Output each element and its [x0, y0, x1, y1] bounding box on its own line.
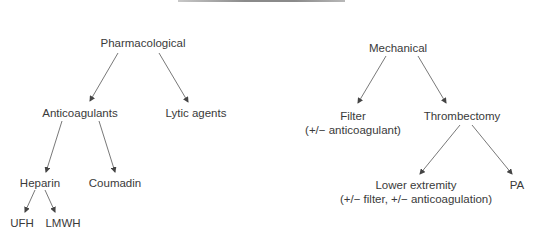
node-thrombectomy: Thrombectomy — [424, 109, 501, 123]
edge-pharm-lytic — [159, 53, 188, 102]
edge-thromb-pa — [472, 125, 512, 174]
edge-thromb-lower — [420, 125, 460, 174]
edge-mech-filter — [358, 56, 386, 103]
node-anticoagulants: Anticoagulants — [42, 106, 117, 120]
node-label: Lytic agents — [166, 106, 227, 120]
node-note: (+/− anticoagulant) — [305, 123, 401, 137]
node-mechanical: Mechanical — [369, 41, 427, 55]
node-filter: Filter (+/− anticoagulant) — [305, 109, 401, 137]
edge-mech-thrombectomy — [418, 56, 446, 103]
edge-anticoag-coumadin — [99, 121, 115, 172]
node-label: PA — [510, 178, 525, 192]
node-label: UFH — [10, 216, 34, 230]
edge-heparin-ufh — [25, 190, 35, 212]
node-lower-extremity: Lower extremity (+/− filter, +/− anticoa… — [340, 178, 492, 206]
node-coumadin: Coumadin — [89, 176, 141, 190]
edge-anticoag-heparin — [46, 121, 62, 172]
node-pharmacological: Pharmacological — [100, 36, 185, 50]
node-lmwh: LMWH — [45, 216, 80, 230]
node-label: LMWH — [45, 216, 80, 230]
edge-pharm-anticoag — [90, 53, 118, 101]
node-pa: PA — [510, 178, 525, 192]
node-label: Pharmacological — [100, 36, 185, 50]
node-label: Anticoagulants — [42, 106, 117, 120]
edge-heparin-lmwh — [45, 190, 55, 212]
node-note: (+/− filter, +/− anticoagulation) — [340, 192, 492, 206]
node-label: Thrombectomy — [424, 109, 501, 123]
node-label: Lower extremity — [340, 178, 492, 192]
node-label: Filter — [305, 109, 401, 123]
node-label: Heparin — [20, 176, 60, 190]
node-ufh: UFH — [10, 216, 34, 230]
node-lytic-agents: Lytic agents — [166, 106, 227, 120]
node-label: Mechanical — [369, 41, 427, 55]
node-label: Coumadin — [89, 176, 141, 190]
node-heparin: Heparin — [20, 176, 60, 190]
